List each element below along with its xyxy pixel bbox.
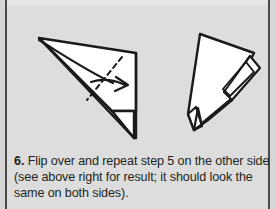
origami-instruction-card: 6. Flip over and repeat step 5 on the ot… <box>0 0 276 209</box>
diagram-row <box>7 4 268 152</box>
caption-line-2: (see above right for result; it should l… <box>14 169 262 185</box>
caption-line-1-text: Flip over and repeat step 5 on the other… <box>24 154 269 168</box>
page-margin-right <box>270 0 276 209</box>
instruction-caption: 6. Flip over and repeat step 5 on the ot… <box>14 153 262 201</box>
after-fold-diagram <box>172 4 268 152</box>
page-rule-right <box>268 0 270 209</box>
step-number: 6. <box>14 154 24 168</box>
caption-line-3: same on both sides). <box>14 185 262 201</box>
result-paper-body <box>188 34 260 130</box>
caption-line-1: 6. Flip over and repeat step 5 on the ot… <box>14 153 262 169</box>
before-fold-diagram <box>17 4 147 152</box>
